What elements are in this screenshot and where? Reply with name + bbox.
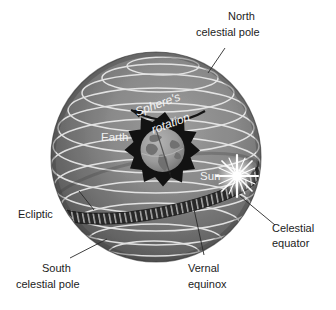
celestial-equator-label-line1: Celestial: [272, 222, 314, 234]
celestial-sphere-figure: Earth Sun Sphere's rotation North celest…: [0, 0, 336, 310]
diagram-canvas: Earth Sun Sphere's rotation North celest…: [0, 0, 336, 310]
celestial-equator-label: Celestial equator: [272, 222, 314, 249]
leader-north-pole: [208, 48, 225, 73]
south-pole-label-line2: celestial pole: [16, 278, 80, 290]
leader-south-pole: [70, 239, 107, 258]
vernal-equinox-label-line1: Vernal: [188, 262, 219, 274]
north-pole-label-line1: North: [228, 10, 255, 22]
north-pole-label-line2: celestial pole: [196, 26, 260, 38]
earth-label: Earth: [101, 131, 129, 143]
south-pole-label-line1: South: [42, 262, 71, 274]
sun-symbol: [216, 155, 258, 197]
vernal-equinox-label-line2: equinox: [188, 278, 227, 290]
sun-core: [232, 171, 241, 180]
north-celestial-pole-label: North celestial pole: [196, 10, 260, 38]
sun-label: Sun: [200, 170, 220, 182]
south-celestial-pole-label: South celestial pole: [16, 262, 80, 290]
celestial-equator-label-line2: equator: [272, 237, 310, 249]
ecliptic-label: Ecliptic: [18, 208, 53, 220]
vernal-equinox-label: Vernal equinox: [188, 262, 227, 290]
